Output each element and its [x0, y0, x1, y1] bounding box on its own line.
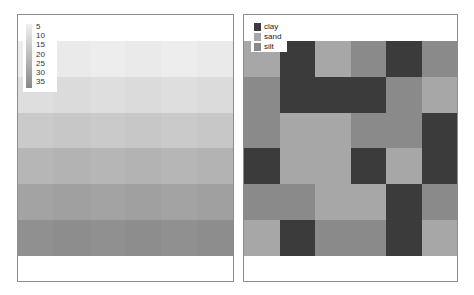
tick-label: 5	[36, 22, 45, 31]
soil-cell-sand	[280, 113, 316, 149]
legend-item-silt: silt	[251, 42, 287, 51]
heatmap-cell	[18, 113, 54, 149]
tick-label: 10	[36, 31, 45, 40]
soil-cell-silt	[351, 113, 387, 149]
soil-cell-silt	[351, 220, 387, 256]
heatmap-cell	[197, 77, 233, 113]
heatmap-cell	[90, 184, 126, 220]
soil-cell-clay	[386, 41, 422, 77]
soil-cell-clay	[280, 220, 316, 256]
soil-cell-sand	[386, 148, 422, 184]
soil-cell-sand	[244, 220, 280, 256]
legend-label: clay	[264, 22, 278, 31]
heatmap-cell	[54, 184, 90, 220]
soil-cell-silt	[244, 77, 280, 113]
silt-swatch	[254, 43, 261, 51]
heatmap-cell	[90, 148, 126, 184]
heatmap-cell	[161, 77, 197, 113]
legend-label: silt	[264, 42, 274, 51]
soil-cell-clay	[422, 113, 458, 149]
soil-cell-clay	[351, 148, 387, 184]
legend-item-clay: clay	[251, 22, 287, 31]
soil-cell-sand	[422, 77, 458, 113]
heatmap-cell	[54, 113, 90, 149]
soil-cell-silt	[386, 113, 422, 149]
soil-cell-silt	[244, 184, 280, 220]
heatmap-cell	[54, 41, 90, 77]
heatmap-cell	[90, 220, 126, 256]
soil-cell-silt	[351, 41, 387, 77]
heatmap-cell	[161, 148, 197, 184]
heatmap-cell	[197, 41, 233, 77]
soil-cell-silt	[280, 184, 316, 220]
heatmap-cell	[197, 148, 233, 184]
heatmap-cell	[125, 41, 161, 77]
heatmap-cell	[18, 220, 54, 256]
heatmap-cell	[54, 220, 90, 256]
soil-cell-sand	[422, 220, 458, 256]
soil-cell-clay	[422, 148, 458, 184]
legend-label: sand	[264, 32, 281, 41]
soil-cell-sand	[315, 41, 351, 77]
heatmap-cell	[90, 113, 126, 149]
heatmap-cell	[90, 77, 126, 113]
soil-cell-sand	[315, 184, 351, 220]
soil-cell-silt	[386, 77, 422, 113]
heatmap-cell	[161, 220, 197, 256]
heatmap-cell	[197, 220, 233, 256]
heatmap-cell	[125, 220, 161, 256]
soil-cell-sand	[315, 148, 351, 184]
soil-cell-sand	[315, 113, 351, 149]
heatmap-cell	[125, 184, 161, 220]
heatmap-cell	[161, 184, 197, 220]
heatmap-cell	[125, 77, 161, 113]
soil-legend: clay sand silt	[251, 21, 287, 52]
colorbar-gradient	[26, 24, 32, 88]
heatmap-cell	[54, 77, 90, 113]
soil-cell-clay	[244, 148, 280, 184]
heatmap-cell	[125, 113, 161, 149]
tick-label: 35	[36, 77, 45, 86]
heatmap-cell	[197, 184, 233, 220]
legend-item-sand: sand	[251, 32, 287, 41]
soil-cell-sand	[280, 148, 316, 184]
colorbar-ticks: 5 10 15 20 25 30 35	[36, 22, 45, 86]
tick-label: 15	[36, 40, 45, 49]
soil-cell-silt	[422, 184, 458, 220]
heatmap-cell	[54, 148, 90, 184]
tick-label: 25	[36, 59, 45, 68]
heatmap-cell	[197, 113, 233, 149]
soil-cell-clay	[280, 77, 316, 113]
heatmap-cell	[161, 113, 197, 149]
soil-cell-clay	[315, 77, 351, 113]
heatmap-cell	[18, 148, 54, 184]
soil-cell-silt	[244, 113, 280, 149]
depth-map-panel: 5 10 15 20 25 30 35	[17, 14, 234, 282]
soil-cell-silt	[422, 41, 458, 77]
soil-cell-clay	[386, 184, 422, 220]
sand-swatch	[254, 33, 261, 41]
tick-label: 20	[36, 50, 45, 59]
soil-grid	[244, 41, 457, 256]
heatmap-cell	[125, 148, 161, 184]
soil-type-panel: clay sand silt	[243, 14, 458, 282]
soil-cell-sand	[351, 184, 387, 220]
soil-cell-clay	[386, 220, 422, 256]
heatmap-cell	[90, 41, 126, 77]
clay-swatch	[254, 23, 261, 31]
soil-cell-clay	[351, 77, 387, 113]
soil-cell-silt	[315, 220, 351, 256]
heatmap-cell	[18, 184, 54, 220]
heatmap-cell	[161, 41, 197, 77]
depth-colorbar-legend: 5 10 15 20 25 30 35	[23, 20, 57, 92]
tick-label: 30	[36, 68, 45, 77]
